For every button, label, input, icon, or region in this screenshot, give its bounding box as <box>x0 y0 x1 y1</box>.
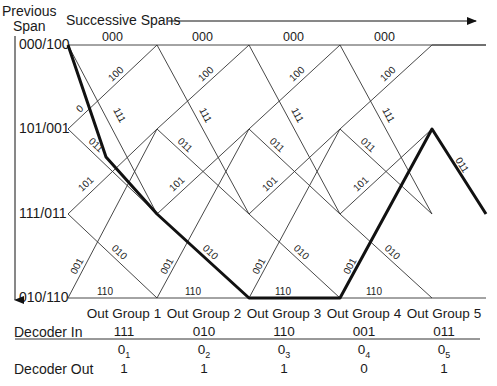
svg-text:001: 001 <box>158 256 176 276</box>
decoder-out-5: 1 <box>399 361 489 376</box>
svg-text:011: 011 <box>176 135 195 154</box>
svg-text:111: 111 <box>380 106 397 125</box>
svg-text:101: 101 <box>351 174 371 194</box>
decoder-out-4: 0 <box>319 361 409 376</box>
output-label-4: 04 <box>319 342 409 360</box>
decoder-in-2: 010 <box>159 324 249 339</box>
output-label-3: 03 <box>239 342 329 360</box>
decoder-out-1: 1 <box>79 361 169 376</box>
output-label-2: 02 <box>159 342 249 360</box>
decoder-in-label: Decoder In <box>14 324 82 340</box>
decoder-in-3: 110 <box>239 324 329 339</box>
o-subscript: 3 <box>285 350 290 360</box>
out-group-2: Out Group 2 <box>159 306 249 321</box>
svg-text:011: 011 <box>453 155 471 175</box>
decoded-path <box>68 45 486 298</box>
o-subscript: 2 <box>205 350 210 360</box>
svg-text:110: 110 <box>366 286 382 297</box>
out-group-4: Out Group 4 <box>319 306 409 321</box>
decoder-in-4: 001 <box>319 324 409 339</box>
svg-text:100: 100 <box>378 64 398 84</box>
svg-text:000: 000 <box>283 30 304 44</box>
output-label-1: 01 <box>79 342 169 360</box>
svg-text:111: 111 <box>111 106 128 125</box>
svg-text:110: 110 <box>185 286 201 297</box>
svg-text:010: 010 <box>201 242 221 262</box>
svg-text:001: 001 <box>68 256 86 276</box>
decoder-out-3: 1 <box>239 361 329 376</box>
svg-text:000: 000 <box>192 30 213 44</box>
svg-text:101: 101 <box>167 174 187 194</box>
out-group-1: Out Group 1 <box>79 306 169 321</box>
svg-text:010: 010 <box>292 242 312 262</box>
decoder-out-2: 1 <box>159 361 249 376</box>
o-subscript: 4 <box>365 350 370 360</box>
svg-text:001: 001 <box>341 256 359 276</box>
svg-text:010: 010 <box>110 242 130 262</box>
svg-text:010: 010 <box>383 242 403 262</box>
svg-text:111: 111 <box>197 106 214 125</box>
svg-text:110: 110 <box>275 286 291 297</box>
svg-text:111: 111 <box>289 106 306 125</box>
decoder-in-5: 011 <box>399 324 489 339</box>
svg-text:011: 011 <box>268 135 287 154</box>
svg-text:100: 100 <box>196 64 216 84</box>
output-label-5: 05 <box>399 342 489 360</box>
out-group-5: Out Group 5 <box>399 306 489 321</box>
svg-text:000: 000 <box>374 30 395 44</box>
o-subscript: 1 <box>125 350 130 360</box>
svg-text:011: 011 <box>359 135 378 154</box>
decoder-in-1: 111 <box>79 324 169 339</box>
svg-text:000: 000 <box>102 30 123 44</box>
out-group-3: Out Group 3 <box>239 306 329 321</box>
svg-text:100: 100 <box>287 64 307 84</box>
svg-text:110: 110 <box>97 286 113 297</box>
svg-text:100: 100 <box>106 64 126 84</box>
svg-text:101: 101 <box>260 174 280 194</box>
svg-text:0: 0 <box>74 102 86 114</box>
trellis-edges <box>68 45 486 298</box>
svg-text:001: 001 <box>250 256 268 276</box>
o-subscript: 5 <box>445 350 450 360</box>
